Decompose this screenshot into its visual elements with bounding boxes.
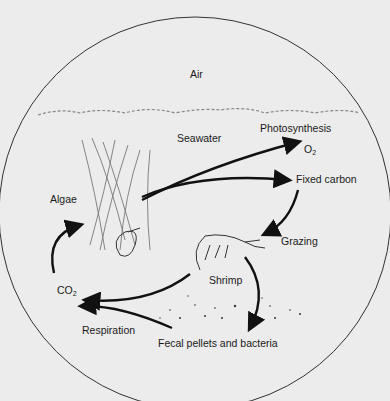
arrow-photosynthesis <box>142 142 298 200</box>
algae-drawing <box>82 138 150 250</box>
shrimp-drawing <box>196 235 265 270</box>
water-surface <box>38 109 360 115</box>
arrow-shrimp-respiration <box>86 274 190 301</box>
label-photosynthesis: Photosynthesis <box>260 122 331 134</box>
label-fixed-carbon: Fixed carbon <box>296 173 357 185</box>
label-algae: Algae <box>50 193 77 205</box>
sediment-dots <box>159 295 301 319</box>
arrow-fixed-carbon <box>142 178 288 197</box>
arrow-shrimp-to-fecal <box>245 257 259 328</box>
label-grazing: Grazing <box>281 235 318 247</box>
label-air: Air <box>190 68 203 80</box>
label-seawater: Seawater <box>177 132 221 144</box>
label-co2: CO2 <box>57 284 77 297</box>
arrow-co2-to-algae <box>52 225 80 273</box>
label-fecal-pellets: Fecal pellets and bacteria <box>158 337 278 349</box>
label-shrimp: Shrimp <box>209 274 242 286</box>
arrow-grazing <box>265 190 298 234</box>
label-respiration: Respiration <box>82 324 135 336</box>
shrimp-drawing-algae <box>116 228 140 256</box>
label-o2: O2 <box>304 143 316 156</box>
